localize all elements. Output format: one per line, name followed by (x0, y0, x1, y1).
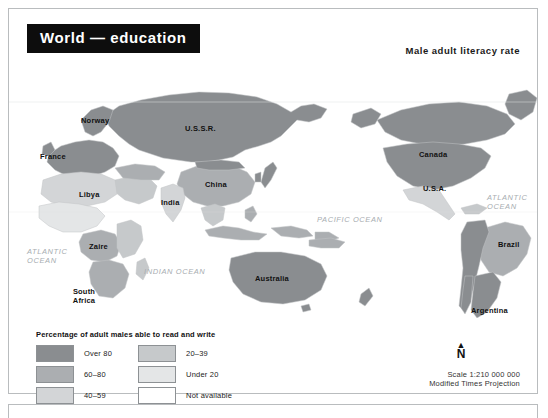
north-label: N (452, 349, 470, 359)
page-title-text: World — education (40, 29, 187, 46)
legend-label-over-80: Over 80 (84, 349, 112, 358)
country-label-usa: U.S.A. (423, 184, 446, 193)
legend-item-not-available: Not available (138, 387, 232, 404)
country-label-south-africa: SouthAfrica (61, 288, 107, 305)
country-label-zaire: Zaire (89, 242, 108, 251)
legend-item-60-80: 60–80 (36, 366, 112, 383)
country-label-brazil: Brazil (498, 240, 520, 249)
map-legend: Percentage of adult males able to read a… (36, 330, 232, 404)
legend-item-under-20: Under 20 (138, 366, 232, 383)
country-label-norway: Norway (81, 116, 109, 125)
legend-label-60-80: 60–80 (84, 370, 106, 379)
legend-item-40-59: 40–59 (36, 387, 112, 404)
country-label-libya: Libya (79, 190, 100, 199)
country-label-ussr: U.S.S.R. (185, 124, 216, 133)
scale-ratio: Scale 1:210 000 000 (429, 370, 520, 379)
country-label-canada: Canada (419, 150, 447, 159)
legend-swatch-over-80 (36, 345, 74, 362)
legend-label-20-39: 20–39 (186, 349, 208, 358)
legend-column-left: Over 80 60–80 40–59 (36, 345, 112, 404)
map-page: World — education Male adult literacy ra… (0, 0, 548, 418)
map-subtitle: Male adult literacy rate (406, 45, 520, 56)
legend-label-40-59: 40–59 (84, 391, 106, 400)
legend-swatch-40-59 (36, 387, 74, 404)
legend-item-20-39: 20–39 (138, 345, 232, 362)
ocean-label-atlantic-west: ATLANTICOCEAN (27, 248, 68, 265)
map-scale: Scale 1:210 000 000 Modified Times Proje… (429, 370, 520, 389)
country-label-india: India (161, 198, 180, 207)
legend-label-under-20: Under 20 (186, 370, 218, 379)
country-label-australia: Australia (255, 274, 289, 283)
legend-title: Percentage of adult males able to read a… (36, 330, 232, 339)
country-label-china: China (205, 180, 227, 189)
legend-column-right: 20–39 Under 20 Not available (138, 345, 232, 404)
ocean-label-pacific: PACIFIC OCEAN (317, 216, 383, 225)
world-map: Norway France Libya Zaire SouthAfrica U.… (9, 62, 537, 320)
country-label-argentina: Argentina (471, 306, 508, 315)
legend-swatch-not-available (138, 387, 176, 404)
next-page-panel (8, 404, 538, 418)
legend-swatch-20-39 (138, 345, 176, 362)
legend-label-not-available: Not available (186, 391, 232, 400)
legend-item-over-80: Over 80 (36, 345, 112, 362)
ocean-label-atlantic-east: ATLANTICOCEAN (487, 194, 528, 211)
country-label-france: France (40, 152, 66, 161)
page-title: World — education (27, 24, 200, 53)
legend-swatch-under-20 (138, 366, 176, 383)
legend-swatch-60-80 (36, 366, 74, 383)
ocean-label-indian: INDIAN OCEAN (144, 268, 205, 277)
map-projection: Modified Times Projection (429, 379, 520, 388)
north-arrow-icon: ▲ N (452, 342, 470, 359)
